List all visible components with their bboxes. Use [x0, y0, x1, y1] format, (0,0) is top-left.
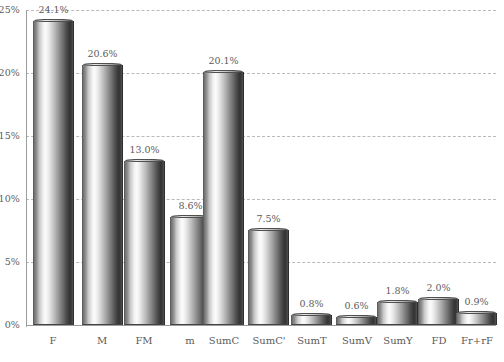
bar-top-ellipse [419, 297, 458, 300]
x-label-SumV: SumV [342, 336, 372, 346]
bar-body [456, 313, 497, 325]
bar-body [33, 21, 74, 325]
bar-body [82, 65, 123, 325]
bar-FM[interactable]: 13.0% [124, 161, 165, 325]
x-label-SumY: SumY [383, 336, 412, 346]
bar-top-ellipse [204, 70, 243, 73]
bar-top-ellipse [83, 63, 122, 66]
bar-body [377, 302, 418, 325]
bar-SumY[interactable]: 1.8% [377, 302, 418, 325]
bar-value-label: 2.0% [426, 283, 450, 293]
bar-value-label: 20.6% [87, 49, 117, 59]
bar-top-ellipse [34, 19, 73, 22]
bar-top-ellipse [457, 311, 496, 314]
bar-body [203, 72, 244, 325]
bar-value-label: 7.5% [256, 214, 280, 224]
bar-SumV[interactable]: 0.6% [336, 317, 377, 325]
bar-body [291, 315, 332, 325]
x-label-M: M [97, 336, 107, 346]
bar-SumC-prime[interactable]: 7.5% [248, 230, 289, 325]
bar-SumT[interactable]: 0.8% [291, 315, 332, 325]
bar-F[interactable]: 24.1% [33, 21, 74, 325]
bar-value-label: 0.9% [464, 297, 488, 307]
bar-FrrF[interactable]: 0.9% [456, 313, 497, 325]
bar-value-label: 20.1% [208, 56, 238, 66]
x-label-SumT: SumT [297, 336, 326, 346]
bar-value-label: 13.0% [129, 145, 159, 155]
bar-FD[interactable]: 2.0% [418, 299, 459, 325]
x-label-FD: FD [432, 336, 447, 346]
x-label-FrrF: Fr+rF [461, 336, 493, 346]
bar-body [248, 230, 289, 325]
x-label-SumC: SumC [209, 336, 239, 346]
bar-value-label: 0.8% [299, 299, 323, 309]
bar-SumC[interactable]: 20.1% [203, 72, 244, 325]
bar-value-label: 24.1% [38, 5, 68, 15]
bar-body [336, 317, 377, 325]
x-label-F: F [50, 336, 57, 346]
bar-body [418, 299, 459, 325]
x-label-m: m [185, 336, 194, 346]
bar-M[interactable]: 20.6% [82, 65, 123, 325]
bars-layer: 24.1% 20.6% 13.0% 8.6% 20.1% [0, 0, 504, 362]
bar-top-ellipse [292, 313, 331, 316]
bar-top-ellipse [337, 315, 376, 318]
bar-value-label: 1.8% [385, 286, 409, 296]
bar-top-ellipse [249, 228, 288, 231]
bar-value-label: 0.6% [344, 301, 368, 311]
x-label-SumC-prime: SumC' [252, 336, 285, 346]
bar-body [124, 161, 165, 325]
x-axis-line [26, 325, 496, 326]
bar-top-ellipse [125, 159, 164, 162]
bar-top-ellipse [378, 300, 417, 303]
bar-chart: 25% 20% 15% 10% 5% 0% 24.1% 20.6% 13.0% [0, 0, 504, 362]
x-label-FM: FM [135, 336, 152, 346]
bar-value-label: 8.6% [178, 201, 202, 211]
